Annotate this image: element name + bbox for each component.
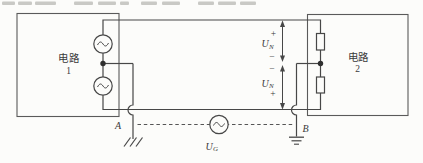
junction-dot-right xyxy=(318,61,323,66)
resistor-lower xyxy=(317,77,325,93)
resistor-upper xyxy=(317,34,325,51)
circuit1-number: 1 xyxy=(66,66,71,76)
lower-plus-sign: + xyxy=(270,89,275,99)
circuit2-title: 电路 xyxy=(348,51,370,63)
ac-source-upper xyxy=(94,35,112,53)
upper-un-label: UN xyxy=(262,38,275,51)
earth-ground-icon xyxy=(289,137,304,144)
node-b-drop-wire xyxy=(292,64,297,137)
top-loop-wire xyxy=(103,20,321,35)
circuit-diagram-figure: 电路 1 电路 2 + UN − − UN + A B UG xyxy=(0,0,423,163)
circuit2-number: 2 xyxy=(355,64,360,74)
ground-loop-schematic: 电路 1 电路 2 + UN − − UN + A B UG xyxy=(0,0,423,163)
circuit1-title: 电路 xyxy=(58,52,80,64)
ac-source-lower xyxy=(94,77,112,95)
cropped-text-artifact xyxy=(2,2,256,5)
dimension-arrow-lower xyxy=(280,65,285,110)
junction-dot-left xyxy=(100,61,105,66)
node-a-drop-wire xyxy=(128,64,133,140)
lower-minus-sign: − xyxy=(269,64,274,74)
dimension-arrow-upper xyxy=(280,20,285,62)
node-b-label: B xyxy=(302,123,308,134)
upper-plus-sign: + xyxy=(271,29,276,39)
ground-voltage-source xyxy=(210,115,228,133)
bottom-loop-wire xyxy=(103,93,321,110)
upper-minus-sign: − xyxy=(269,52,274,62)
ug-label: UG xyxy=(206,141,219,154)
node-a-label: A xyxy=(114,120,122,131)
